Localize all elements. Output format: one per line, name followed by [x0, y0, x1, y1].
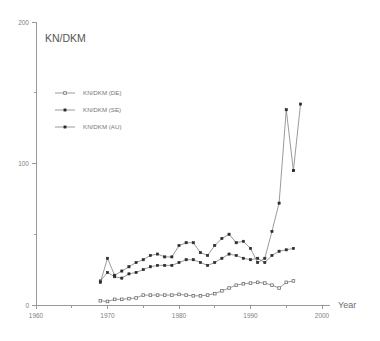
data-point-marker [121, 298, 124, 301]
x-tick-label: 1990 [243, 312, 258, 319]
legend-item-1[interactable]: KN/DKM (SE) [55, 106, 121, 113]
data-point-marker [178, 293, 181, 296]
data-point-marker [185, 259, 187, 261]
data-point-marker [278, 202, 280, 204]
y-tick-label: 0 [25, 302, 29, 309]
data-point-marker [213, 292, 216, 295]
legend-swatch-marker [64, 109, 66, 111]
data-point-marker [257, 261, 259, 263]
data-point-marker [156, 253, 158, 255]
series-3 [292, 103, 301, 172]
data-point-marker [135, 261, 137, 263]
data-point-marker [271, 230, 273, 232]
data-point-marker [292, 280, 295, 283]
data-point-marker [142, 294, 145, 297]
data-point-marker [207, 254, 209, 256]
data-point-marker [171, 264, 173, 266]
data-point-marker [285, 249, 287, 251]
data-point-marker [171, 294, 174, 297]
data-point-marker [178, 261, 180, 263]
data-point-marker [149, 294, 152, 297]
legend-item-label: KN/DKM (SE) [83, 106, 121, 113]
data-point-marker [257, 257, 259, 259]
legend-swatch-marker [64, 92, 67, 95]
data-point-marker [242, 240, 244, 242]
legend-item-2[interactable]: KN/DKM (AU) [55, 123, 122, 130]
data-point-marker [128, 297, 131, 300]
data-point-marker [149, 266, 151, 268]
data-point-marker [235, 242, 237, 244]
data-point-marker [207, 264, 209, 266]
data-point-marker [199, 261, 201, 263]
legend-swatch-marker [64, 126, 66, 128]
x-tick-label: 1960 [29, 312, 44, 319]
series-1 [99, 247, 294, 282]
data-point-marker [192, 242, 194, 244]
data-point-marker [128, 266, 130, 268]
data-point-marker [278, 287, 281, 290]
data-point-marker [235, 284, 238, 287]
data-point-marker [299, 103, 301, 105]
data-point-marker [235, 254, 237, 256]
data-point-marker [99, 299, 102, 302]
data-point-marker [171, 256, 173, 258]
data-point-marker [242, 282, 245, 285]
data-point-marker [264, 282, 267, 285]
chart-title: KN/DKM [45, 32, 86, 44]
data-point-marker [249, 259, 251, 261]
data-point-marker [228, 233, 230, 235]
series-0 [99, 280, 295, 303]
x-axis-label: Year [338, 300, 356, 310]
series-line-1 [100, 248, 293, 281]
chart-container: 010020019601970198019902000 KN/DKM Year … [0, 0, 380, 341]
legend-item-label: KN/DKM (AU) [83, 123, 122, 130]
line-chart: 010020019601970198019902000 KN/DKM Year … [0, 0, 380, 341]
data-point-marker [114, 274, 116, 276]
data-point-marker [242, 257, 244, 259]
data-point-marker [156, 294, 159, 297]
y-tick-label: 100 [18, 160, 29, 167]
axes: 010020019601970198019902000 [18, 19, 330, 320]
data-point-marker [185, 242, 187, 244]
data-point-marker [135, 297, 138, 300]
data-point-marker [199, 252, 201, 254]
data-point-marker [292, 247, 294, 249]
data-point-marker [271, 254, 273, 256]
series-line-2 [100, 110, 293, 283]
legend-item-0[interactable]: KN/DKM (DE) [55, 89, 122, 96]
x-tick-label: 2000 [315, 312, 330, 319]
data-point-marker [128, 273, 130, 275]
data-point-marker [285, 109, 287, 111]
data-point-marker [135, 271, 137, 273]
data-point-marker [199, 295, 202, 298]
data-point-marker [278, 250, 280, 252]
legend-item-label: KN/DKM (DE) [83, 89, 122, 96]
data-point-marker [149, 254, 151, 256]
data-point-marker [163, 294, 166, 297]
data-point-marker [292, 169, 294, 171]
series-2 [99, 109, 294, 284]
data-point-marker [221, 257, 223, 259]
data-point-marker [214, 261, 216, 263]
data-point-marker [285, 281, 288, 284]
data-point-marker [192, 259, 194, 261]
data-point-marker [164, 256, 166, 258]
data-point-marker [264, 257, 266, 259]
data-point-marker [228, 287, 231, 290]
data-point-marker [142, 269, 144, 271]
data-point-marker [106, 300, 109, 303]
data-point-marker [206, 294, 209, 297]
y-tick-label: 200 [18, 19, 29, 26]
data-point-marker [113, 298, 116, 301]
data-point-marker [106, 271, 108, 273]
data-point-marker [185, 294, 188, 297]
data-point-marker [178, 244, 180, 246]
data-point-marker [264, 261, 266, 263]
data-point-marker [121, 270, 123, 272]
data-point-marker [106, 257, 108, 259]
data-point-marker [256, 281, 259, 284]
legend: KN/DKM (DE)KN/DKM (SE)KN/DKM (AU) [55, 89, 122, 130]
data-point-marker [164, 264, 166, 266]
data-point-marker [156, 264, 158, 266]
x-tick-label: 1980 [172, 312, 187, 319]
